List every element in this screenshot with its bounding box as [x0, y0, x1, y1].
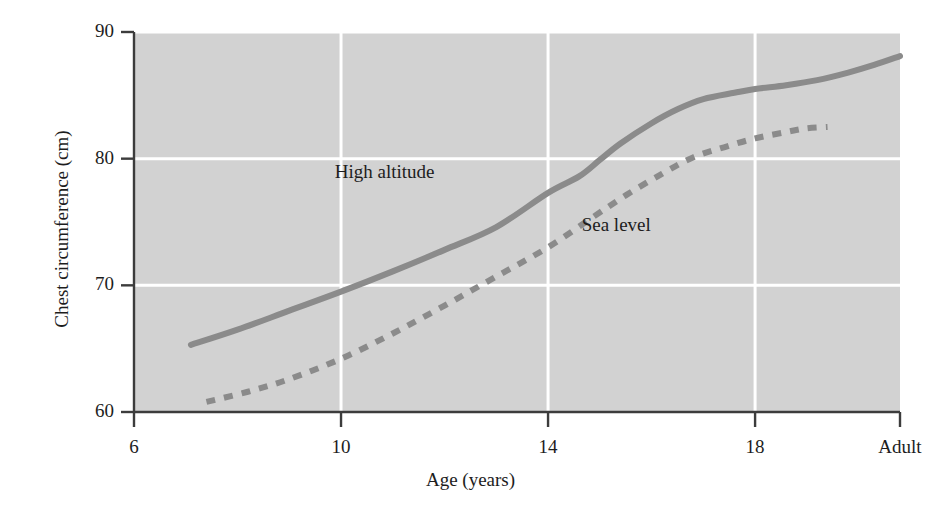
- x-tick-label: 18: [710, 436, 800, 458]
- series-label-sea-level: Sea level: [582, 214, 651, 236]
- y-tick-label: 90: [64, 20, 114, 42]
- series-label-high-altitude: High altitude: [335, 161, 435, 183]
- x-tick-label: Adult: [855, 436, 941, 458]
- x-tick-label: 6: [89, 436, 179, 458]
- y-axis-title: Chest circumference (cm): [51, 79, 73, 379]
- x-tick-label: 14: [503, 436, 593, 458]
- x-tick-label: 10: [296, 436, 386, 458]
- y-tick-label: 70: [64, 273, 114, 295]
- y-tick-label: 60: [64, 400, 114, 422]
- y-tick-label: 80: [64, 147, 114, 169]
- plot-panel: [134, 32, 900, 412]
- chart-figure: Chest circumference (cm) Age (years) 908…: [0, 0, 941, 522]
- x-axis-title: Age (years): [0, 469, 941, 491]
